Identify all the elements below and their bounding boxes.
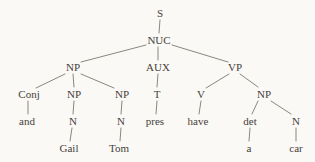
edge-vp-v bbox=[206, 74, 229, 88]
edge-n-tom bbox=[120, 128, 121, 141]
node-n-second-label: N bbox=[117, 115, 125, 127]
node-conj-label: Conj bbox=[18, 88, 39, 100]
node-np-first-label: NP bbox=[67, 88, 81, 100]
edge-n-gail bbox=[70, 128, 72, 141]
node-n-first-label: N bbox=[69, 115, 77, 127]
edge-np-subject-conj bbox=[36, 74, 65, 88]
node-np-second-label: NP bbox=[115, 88, 129, 100]
edge-v-have bbox=[199, 101, 201, 114]
node-det-label: det bbox=[243, 115, 256, 127]
leaf-have-label: have bbox=[188, 115, 209, 127]
node-np-object-label: NP bbox=[257, 88, 271, 100]
leaf-pres-label: pres bbox=[146, 115, 164, 127]
edge-np-subject-np-first bbox=[73, 74, 74, 87]
edge-np-subject-np-second bbox=[81, 74, 114, 88]
leaf-car-label: car bbox=[289, 142, 303, 154]
edge-vp-np-object bbox=[240, 74, 258, 87]
edge-np-first-n bbox=[73, 101, 74, 114]
node-vp-label: VP bbox=[228, 61, 242, 73]
leaf-gail-label: Gail bbox=[60, 142, 79, 154]
node-nuc-label: NUC bbox=[147, 34, 170, 46]
edge-np-object-det bbox=[252, 101, 258, 114]
node-t-label: T bbox=[154, 88, 161, 100]
tree-node-labels: S NUC NP AUX VP Conj NP NP T V NP and N … bbox=[18, 7, 303, 154]
tree-canvas: S NUC NP AUX VP Conj NP NP T V NP and N … bbox=[0, 0, 315, 162]
edge-nuc-np-subject bbox=[81, 45, 146, 62]
node-s-label: S bbox=[157, 7, 163, 19]
edge-t-pres bbox=[156, 101, 157, 114]
node-v-label: V bbox=[197, 88, 205, 100]
edge-np-object-n bbox=[271, 101, 291, 114]
leaf-tom-label: Tom bbox=[109, 142, 129, 154]
edge-np-second-n bbox=[121, 101, 122, 114]
edge-aux-t bbox=[157, 74, 158, 87]
node-n-object-label: N bbox=[292, 115, 300, 127]
edge-s-nuc bbox=[159, 20, 160, 33]
node-np-subject-label: NP bbox=[66, 61, 80, 73]
leaf-and-label: and bbox=[19, 115, 35, 127]
node-aux-label: AUX bbox=[146, 61, 170, 73]
leaf-a-label: a bbox=[247, 142, 252, 154]
syntax-tree-diagram: S NUC NP AUX VP Conj NP NP T V NP and N … bbox=[0, 0, 315, 162]
edge-nuc-vp bbox=[172, 45, 228, 62]
edge-det-a bbox=[249, 128, 250, 141]
